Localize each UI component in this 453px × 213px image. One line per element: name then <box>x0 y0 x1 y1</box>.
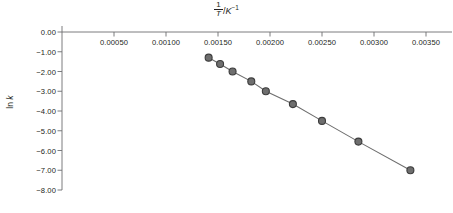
x-tick-label-5: 0.00300 <box>360 38 388 47</box>
y-tick-label-3: −3.00 <box>10 87 56 96</box>
data-point-5[interactable] <box>289 101 296 108</box>
y-tick-label-2: −2.00 <box>10 67 56 76</box>
y-tick-label-7: −7.00 <box>10 166 56 175</box>
data-point-8[interactable] <box>407 167 414 174</box>
y-tick-label-1: −1.00 <box>10 47 56 56</box>
y-tick-label-6: −6.00 <box>10 146 56 155</box>
x-tick-label-2: 0.00150 <box>204 38 232 47</box>
arrhenius-plot: 1 T /K−1 ln k 0.000500.001000.001500.002… <box>0 0 453 213</box>
data-point-7[interactable] <box>355 138 362 145</box>
data-point-4[interactable] <box>262 88 269 95</box>
y-tick-label-0: 0.00 <box>10 28 56 37</box>
y-tick-label-5: −5.00 <box>10 126 56 135</box>
data-point-2[interactable] <box>229 68 236 75</box>
plot-canvas <box>0 0 453 213</box>
data-series <box>205 54 414 174</box>
y-tick-label-4: −4.00 <box>10 107 56 116</box>
data-point-0[interactable] <box>205 54 212 61</box>
series-line <box>209 58 411 171</box>
data-point-6[interactable] <box>319 117 326 124</box>
x-tick-label-0: 0.00050 <box>100 38 128 47</box>
y-tick-label-8: −8.00 <box>10 186 56 195</box>
x-tick-label-6: 0.00350 <box>412 38 440 47</box>
axes <box>58 26 453 190</box>
data-point-3[interactable] <box>248 78 255 85</box>
x-tick-label-1: 0.00100 <box>152 38 180 47</box>
x-tick-label-4: 0.00250 <box>308 38 336 47</box>
x-tick-label-3: 0.00200 <box>256 38 284 47</box>
data-point-1[interactable] <box>217 61 224 68</box>
